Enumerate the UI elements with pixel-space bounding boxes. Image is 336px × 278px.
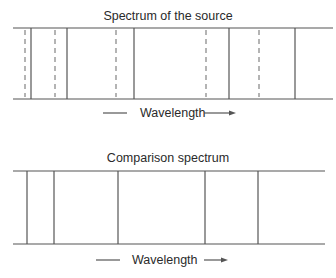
source-wavelength-axis: Wavelength [103, 106, 236, 120]
comparison-wavelength-label: Wavelength [132, 253, 198, 267]
comparison-spectrum-title: Comparison spectrum [107, 151, 229, 165]
source-spectrum-title: Spectrum of the source [103, 9, 232, 23]
comparison-spectrum-panel: Comparison spectrum Wavelength [13, 151, 325, 267]
arrow-right-icon [229, 111, 236, 116]
arrow-right-icon [221, 258, 228, 263]
comparison-spectral-lines [13, 171, 325, 244]
comparison-wavelength-axis: Wavelength [96, 253, 228, 267]
source-wavelength-label: Wavelength [140, 106, 206, 120]
spectrum-comparison-diagram: Spectrum of the source Wavelength Compar… [0, 0, 336, 278]
source-spectral-lines [13, 28, 333, 99]
source-spectrum-panel: Spectrum of the source Wavelength [13, 9, 333, 120]
